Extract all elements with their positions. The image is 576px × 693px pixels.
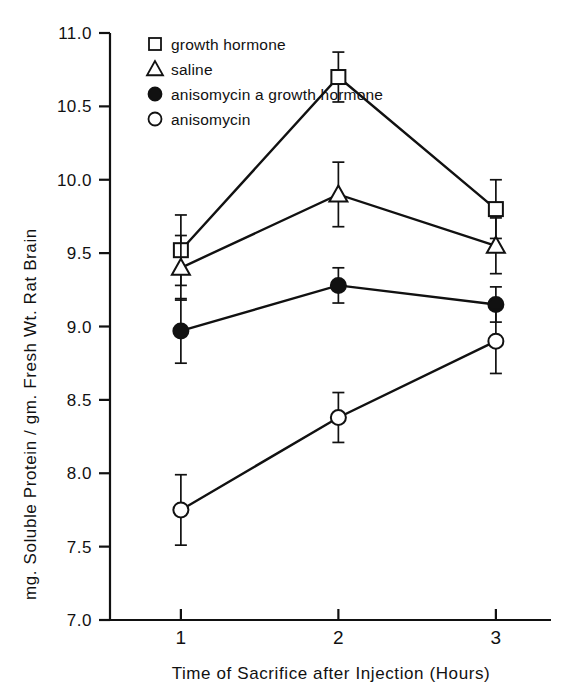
data-point-marker bbox=[173, 502, 188, 517]
y-tick-label: 11.0 bbox=[58, 24, 92, 43]
legend-marker-filled-circle-icon bbox=[149, 88, 162, 101]
x-tick-label: 1 bbox=[176, 627, 187, 648]
x-tick-group: 123 bbox=[176, 609, 502, 648]
legend-item: saline bbox=[147, 61, 213, 78]
y-tick-label: 7.5 bbox=[67, 538, 92, 557]
y-tick-label: 8.5 bbox=[67, 391, 92, 410]
y-tick-group: 7.07.58.08.59.09.510.010.511.0 bbox=[57, 24, 110, 630]
legend-label: anisomycin a growth hormone bbox=[171, 86, 383, 103]
legend-marker-open-square-icon bbox=[149, 38, 161, 50]
legend-marker-open-circle-icon bbox=[149, 113, 162, 126]
legend-marker-open-triangle-icon bbox=[147, 61, 163, 75]
x-tick-label: 3 bbox=[491, 627, 502, 648]
series-anisomycin-a-growth-hormone bbox=[173, 268, 503, 363]
data-point-marker bbox=[173, 323, 188, 338]
data-point-marker bbox=[489, 202, 503, 216]
data-point-marker bbox=[331, 278, 346, 293]
line-chart: mg. Soluble Protein / gm. Fresh Wt. Rat … bbox=[0, 0, 576, 693]
legend-item: anisomycin bbox=[149, 111, 251, 128]
data-point-marker bbox=[331, 70, 345, 84]
y-tick-label: 8.0 bbox=[67, 464, 92, 483]
y-tick-label: 9.5 bbox=[67, 244, 92, 263]
legend-label: anisomycin bbox=[171, 111, 251, 128]
data-point-marker bbox=[488, 334, 503, 349]
y-axis-title: mg. Soluble Protein / gm. Fresh Wt. Rat … bbox=[21, 228, 40, 600]
legend-item: growth hormone bbox=[149, 36, 286, 53]
y-tick-label: 9.0 bbox=[67, 318, 92, 337]
chart-legend: growth hormonesalineanisomycin a growth … bbox=[147, 36, 383, 128]
data-point-marker bbox=[329, 185, 347, 201]
legend-label: growth hormone bbox=[171, 36, 286, 53]
data-point-marker bbox=[172, 259, 190, 275]
chart-figure: mg. Soluble Protein / gm. Fresh Wt. Rat … bbox=[0, 0, 576, 693]
x-axis-title: Time of Sacrifice after Injection (Hours… bbox=[172, 664, 491, 683]
y-tick-label: 10.0 bbox=[57, 171, 92, 190]
data-point-marker bbox=[331, 410, 346, 425]
legend-item: anisomycin a growth hormone bbox=[149, 86, 384, 103]
legend-label: saline bbox=[171, 61, 213, 78]
x-tick-label: 2 bbox=[333, 627, 344, 648]
y-tick-label: 7.0 bbox=[67, 611, 92, 630]
series-anisomycin bbox=[173, 309, 503, 545]
y-tick-label: 10.5 bbox=[57, 97, 92, 116]
